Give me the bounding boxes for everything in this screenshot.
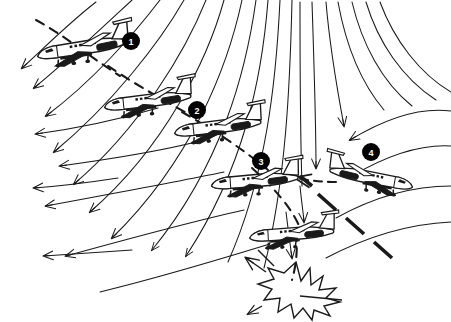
step-marker-2[interactable]: 2 <box>188 101 206 119</box>
step-marker-4[interactable]: 4 <box>362 143 380 161</box>
step-marker-1-label: 1 <box>128 37 133 47</box>
step-marker-4-label: 4 <box>368 148 373 158</box>
step-marker-3[interactable]: 3 <box>252 152 270 170</box>
wind-shear-diagram: 1 2 3 4 <box>0 0 451 322</box>
step-marker-2-label: 2 <box>194 106 199 116</box>
step-marker-3-label: 3 <box>258 157 263 167</box>
step-marker-1[interactable]: 1 <box>122 32 140 50</box>
diagram-canvas: 1 2 3 4 <box>0 0 451 322</box>
